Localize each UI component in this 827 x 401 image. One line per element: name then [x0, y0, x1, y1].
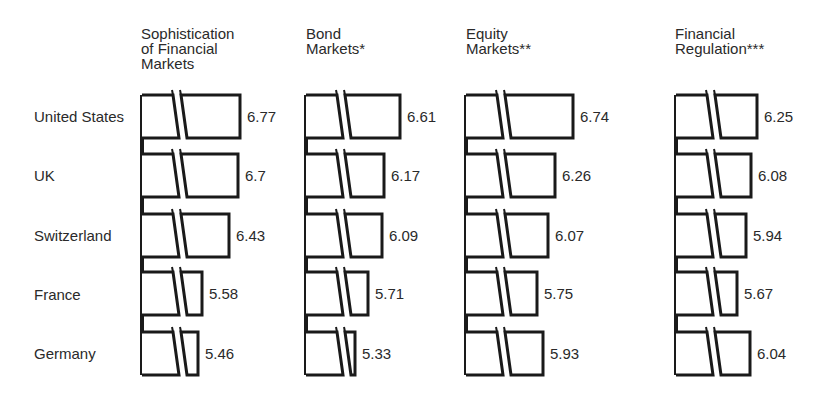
panel-title-equity-markets: Equity Markets** — [466, 26, 531, 56]
bar-value-label: 5.71 — [375, 285, 404, 302]
bar — [142, 209, 239, 262]
panel-title-financial-regulation: Financial Regulation*** — [675, 26, 764, 56]
bar-value-label: 5.33 — [362, 345, 391, 362]
bar-value-label: 5.93 — [550, 345, 579, 362]
bar — [466, 209, 558, 262]
bar — [676, 149, 761, 202]
bar — [306, 149, 394, 202]
bar — [142, 90, 250, 143]
bar-value-label: 6.74 — [580, 108, 609, 125]
bar — [306, 327, 365, 380]
bar — [306, 267, 378, 320]
bar — [676, 209, 756, 262]
bar — [466, 267, 547, 320]
bar-value-label: 6.04 — [757, 345, 786, 362]
bar — [306, 90, 410, 143]
bar — [142, 327, 208, 380]
bar — [676, 90, 767, 143]
bar — [466, 149, 565, 202]
bar — [142, 267, 212, 320]
bar-value-label: 6.08 — [758, 167, 787, 184]
row-label-germany: Germany — [34, 345, 96, 362]
bar-value-label: 6.43 — [236, 227, 265, 244]
bar-value-label: 5.67 — [744, 285, 773, 302]
bar-value-label: 6.77 — [247, 108, 276, 125]
bar — [306, 209, 392, 262]
bar — [676, 327, 760, 380]
bar-value-label: 6.09 — [389, 227, 418, 244]
row-label-france: France — [34, 286, 81, 303]
bar — [466, 90, 583, 143]
bar — [676, 267, 747, 320]
bar-value-label: 5.58 — [209, 285, 238, 302]
bar-value-label: 5.75 — [544, 285, 573, 302]
panel-title-bond-markets: Bond Markets* — [306, 26, 365, 56]
bar-value-label: 6.07 — [555, 227, 584, 244]
bar-value-label: 6.17 — [391, 167, 420, 184]
bar-value-label: 5.46 — [205, 345, 234, 362]
bar-value-label: 6.26 — [562, 167, 591, 184]
bar-value-label: 6.61 — [407, 108, 436, 125]
bar-value-label: 6.25 — [764, 108, 793, 125]
row-label-switzerland: Switzerland — [34, 227, 112, 244]
bar-value-label: 6.7 — [245, 167, 266, 184]
bar — [142, 149, 248, 202]
panel-title-sophistication: Sophistication of Financial Markets — [141, 26, 234, 71]
bar — [466, 327, 553, 380]
row-label-united-states: United States — [34, 108, 124, 125]
bar-value-label: 5.94 — [753, 227, 782, 244]
row-label-uk: UK — [34, 167, 55, 184]
